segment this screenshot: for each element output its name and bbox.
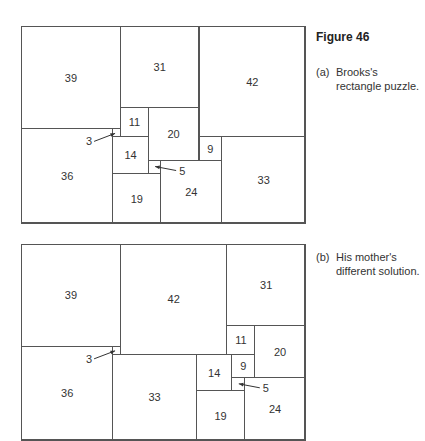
caption-a-text: Brooks's rectangle puzzle.: [336, 65, 425, 93]
caption-b-text: His mother's different solution.: [336, 250, 425, 278]
label-5: 5: [179, 165, 185, 177]
callout-arrows: [21, 244, 345, 440]
label-5: 5: [263, 382, 269, 394]
puzzle-b-mother: 39423136331120149192435: [21, 244, 305, 440]
label-3: 3: [86, 353, 92, 365]
caption-b-tag: (b): [316, 250, 329, 264]
label-3: 3: [86, 135, 92, 147]
figure-title: Figure 46: [316, 30, 369, 44]
puzzle-a-brooks: 39314236112014192493335: [21, 26, 305, 223]
caption-a-tag: (a): [316, 65, 329, 79]
callout-arrows: [21, 26, 345, 223]
